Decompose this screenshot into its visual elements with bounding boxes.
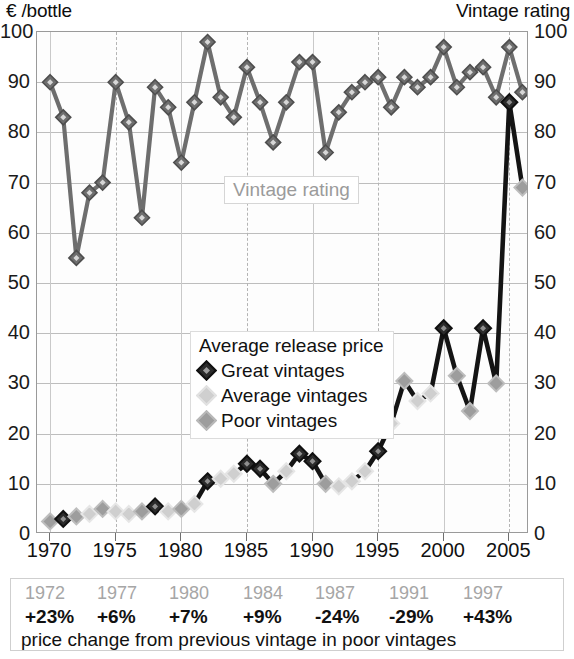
table-year-1987: 1987 <box>315 583 355 604</box>
table-year-1980: 1980 <box>169 583 209 604</box>
table-change-1972: +23% <box>25 606 74 628</box>
price-point-marker-poor <box>449 368 465 384</box>
y-tick-label-left-90: 90 <box>0 71 30 91</box>
series-layer <box>37 32 528 533</box>
table-year-1997: 1997 <box>463 583 503 604</box>
table-change-1977: +6% <box>97 606 136 628</box>
table-change-1984: +9% <box>243 606 282 628</box>
table-year-1984: 1984 <box>243 583 283 604</box>
average-vintage-marker-icon <box>196 385 217 406</box>
table-change-1987: -24% <box>315 606 359 628</box>
legend-label-average: Average vintages <box>221 385 367 407</box>
x-tick-label-1990: 1990 <box>282 540 342 560</box>
y-tick-label-right-10: 10 <box>534 473 572 493</box>
table-year-1991: 1991 <box>389 583 429 604</box>
y-tick-label-left-40: 40 <box>0 322 30 342</box>
y-tick-label-left-10: 10 <box>0 473 30 493</box>
release-price-markers <box>42 94 528 529</box>
price-point-marker-average <box>121 506 137 522</box>
y-tick-label-left-30: 30 <box>0 372 30 392</box>
plot-area <box>36 31 528 533</box>
y-tick-label-left-70: 70 <box>0 172 30 192</box>
left-axis-title: € /bottle <box>6 0 72 22</box>
chart-root: € /bottle Vintage rating 010203040506070… <box>0 0 574 659</box>
vintage-rating-line <box>50 42 522 258</box>
y-tick-label-right-100: 100 <box>534 21 572 41</box>
y-tick-label-right-30: 30 <box>534 372 572 392</box>
y-tick-label-left-100: 100 <box>0 21 30 41</box>
y-tick-label-right-40: 40 <box>534 322 572 342</box>
table-change-1980: +7% <box>169 606 208 628</box>
poor-vintage-marker-icon <box>196 410 217 431</box>
legend-item-poor: Poor vintages <box>199 408 383 433</box>
x-tick-label-2005: 2005 <box>478 540 538 560</box>
y-tick-label-left-50: 50 <box>0 272 30 292</box>
release-price-line <box>50 102 522 521</box>
legend-item-great: Great vintages <box>199 358 383 383</box>
legend-label-great: Great vintages <box>221 360 345 382</box>
y-tick-label-left-20: 20 <box>0 423 30 443</box>
table-change-1991: -29% <box>389 606 433 628</box>
price-point-marker-poor <box>68 508 84 524</box>
table-caption: price change from previous vintage in po… <box>21 629 456 651</box>
table-year-1972: 1972 <box>25 583 65 604</box>
x-tick-label-1985: 1985 <box>216 540 276 560</box>
table-year-1977: 1977 <box>97 583 137 604</box>
y-tick-label-right-0: 0 <box>534 523 572 543</box>
great-vintage-marker-icon <box>196 360 217 381</box>
y-tick-label-right-70: 70 <box>534 172 572 192</box>
legend-title: Average release price <box>199 335 383 357</box>
legend-item-average: Average vintages <box>199 383 383 408</box>
legend-label-poor: Poor vintages <box>221 410 337 432</box>
vintage-rating-markers <box>43 35 528 266</box>
table-change-1997: +43% <box>463 606 512 628</box>
price-point-marker-poor <box>462 403 478 419</box>
x-tick-label-1975: 1975 <box>85 540 145 560</box>
y-tick-label-right-80: 80 <box>534 121 572 141</box>
y-tick-label-left-60: 60 <box>0 222 30 242</box>
legend: Average release price Great vintages Ave… <box>190 331 394 439</box>
price-point-marker-poor <box>488 375 504 391</box>
price-point-marker-poor <box>514 180 528 196</box>
y-tick-label-right-20: 20 <box>534 423 572 443</box>
x-tick-label-2000: 2000 <box>413 540 473 560</box>
price-point-marker-poor <box>42 513 58 529</box>
x-tick-label-1980: 1980 <box>150 540 210 560</box>
x-tick-label-1970: 1970 <box>19 540 79 560</box>
right-axis-title: Vintage rating <box>456 0 570 22</box>
price-point-marker-average <box>108 503 124 519</box>
y-tick-label-left-80: 80 <box>0 121 30 141</box>
x-tick-label-1995: 1995 <box>347 540 407 560</box>
vintage-rating-annotation: Vintage rating <box>224 176 359 204</box>
y-tick-label-right-50: 50 <box>534 272 572 292</box>
y-tick-label-right-90: 90 <box>534 71 572 91</box>
price-change-table: 1972197719801984198719911997 +23%+6%+7%+… <box>10 578 564 651</box>
y-tick-label-right-60: 60 <box>534 222 572 242</box>
